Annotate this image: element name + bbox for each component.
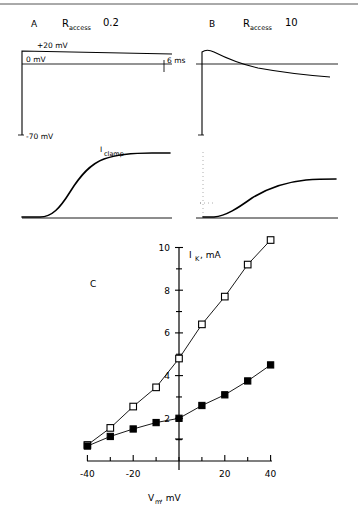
panel-a-time-scale-label: 6 ms: [167, 56, 185, 65]
panel-b-condition-value: 10: [285, 17, 298, 28]
panel-a-condition-symbol: R: [62, 18, 69, 29]
panel-a-high-voltage-label: +20 mV: [37, 41, 69, 50]
data-point-open-square: [130, 403, 137, 410]
panel-a-current-waveform: [22, 153, 170, 217]
y-axis-tick-label: 2: [164, 414, 170, 424]
current-trace-subscript: clamp: [104, 150, 124, 158]
data-point-open-square: [107, 425, 114, 432]
panel-a-letter: A: [31, 19, 38, 29]
panel-a-hold-voltage-label: -70 mV: [26, 132, 54, 141]
y-axis-tick-label: 10: [159, 243, 171, 253]
data-point-open-square: [153, 384, 160, 391]
panel-a-current-trace: [22, 153, 172, 218]
x-axis-tick-label: 40: [265, 469, 277, 479]
data-point-filled-square: [84, 443, 90, 449]
data-point-filled-square: [130, 426, 136, 432]
x-axis-tick-label: -40: [80, 469, 95, 479]
data-point-filled-square: [199, 402, 205, 408]
data-point-open-square: [244, 261, 251, 268]
y-axis-tick-label: 8: [164, 286, 170, 296]
x-axis-tick-label: -20: [126, 469, 141, 479]
panel-a-zero-voltage-label: 0 mV: [26, 55, 46, 64]
y-axis-title-unit: , mA: [200, 250, 221, 260]
data-point-filled-square: [245, 378, 251, 384]
panel-a-condition-value: 0.2: [103, 17, 119, 28]
figure-canvas: A R access 0.2 B R access 10 +20 mV 0 mV…: [0, 0, 358, 514]
data-point-filled-square: [153, 419, 159, 425]
data-point-filled-square: [268, 362, 274, 368]
data-point-open-square: [267, 237, 274, 244]
y-axis-title-symbol: I: [189, 250, 192, 260]
data-point-open-square: [199, 321, 206, 328]
data-point-open-square: [176, 355, 183, 362]
panel-a-condition-subscript: access: [69, 24, 92, 32]
data-point-filled-square: [107, 433, 113, 439]
panel-b-voltage-trace: [196, 50, 338, 135]
current-trace-symbol: I: [100, 145, 102, 154]
panel-b-condition-symbol: R: [243, 18, 250, 29]
panel-b-voltage-waveform: [202, 50, 330, 135]
figure-container: A R access 0.2 B R access 10 +20 mV 0 mV…: [0, 0, 358, 514]
panel-c-letter: C: [90, 279, 96, 289]
x-axis-title-unit: , mV: [160, 493, 181, 503]
data-point-open-square: [222, 293, 229, 300]
y-axis-tick-label: 6: [164, 328, 170, 338]
y-axis-tick-label: 4: [164, 371, 170, 381]
panel-b-condition-subscript: access: [250, 24, 273, 32]
data-point-filled-square: [222, 392, 228, 398]
data-point-filled-square: [176, 415, 182, 421]
x-axis-tick-label: 20: [219, 469, 231, 479]
panel-b-guide-arrow-icon: [200, 201, 214, 205]
panel-b-current-waveform: [203, 179, 336, 217]
x-axis-title-symbol: V: [148, 493, 155, 503]
panel-b-current-trace: [196, 152, 338, 218]
panel-b-letter: B: [209, 19, 215, 29]
